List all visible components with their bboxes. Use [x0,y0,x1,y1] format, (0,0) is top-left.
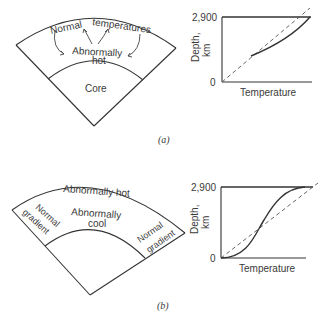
depth-temperature-graph-b: 2,900 0 Depth, km Temperature [189,182,318,274]
y-axis-label-a-1: Depth, [190,33,201,62]
figure-a: Normal temperatures Abnormally hot Core … [16,8,312,146]
y-tick-top-a: 2,900 [192,12,217,23]
left-edge-a [16,45,94,126]
hot-label-a: hot [92,55,106,66]
x-axis-label-b: Temperature [239,263,296,274]
normal-label-a: Normal [49,18,83,35]
figure-canvas: Normal temperatures Abnormally hot Core … [0,0,330,322]
right-edge-b [90,233,185,295]
temperature-profile-curve-b [221,187,305,258]
y-axis-label-b-1: Depth, [189,205,200,234]
figure-label-b: (b) [157,300,169,312]
figure-b: Abnormally hot Normal gradient Abnormall… [12,182,318,312]
abnormally-hot-label-b: Abnormally hot [63,183,131,199]
x-axis-label-a: Temperature [240,87,297,98]
y-tick-bottom-b: 0 [210,253,216,264]
cool-label-b: cool [88,218,106,229]
normal-gradient-dashed-line-a [222,8,310,82]
temperatures-label-a: temperatures [92,16,152,35]
inner-arc-b [45,230,145,258]
y-tick-top-b: 2,900 [191,182,216,193]
y-axis-label-b-2: km [200,216,211,229]
y-tick-bottom-a: 0 [210,77,216,88]
depth-temperature-graph-a: 2,900 0 Depth, km Temperature [190,8,312,98]
mantle-cross-section-a [16,18,176,126]
figure-label-a: (a) [158,134,170,146]
core-label-a: Core [85,83,107,94]
normal-gradient-dashed-line-b [221,183,318,258]
y-axis-label-a-2: km [201,44,212,57]
